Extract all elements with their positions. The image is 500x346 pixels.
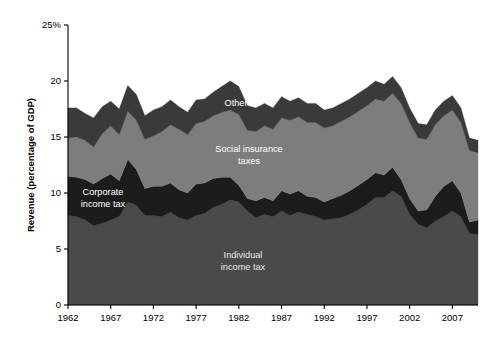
other-label: Other [225,98,248,108]
x-tick-label-1992: 1992 [314,312,335,323]
x-tick-label-2007: 2007 [442,312,463,323]
individual-label-line1: Individual [224,250,263,260]
y-tick-label-25: 25% [42,19,62,30]
x-tick-label-1962: 1962 [57,312,78,323]
social-insurance-label-line1: Social insurance [215,144,282,154]
y-tick-label-20: 20 [50,75,61,86]
x-tick-label-1982: 1982 [228,312,249,323]
revenue-composition-chart: 0510152025%19621967197219771982198719921… [0,0,500,346]
x-tick-label-1997: 1997 [356,312,377,323]
y-tick-label-5: 5 [56,243,61,254]
social-insurance-label-line2: taxes [238,156,260,166]
x-tick-label-1967: 1967 [100,312,121,323]
y-tick-label-10: 10 [50,187,61,198]
x-tick-label-2002: 2002 [399,312,420,323]
y-axis-title: Revenue (percentage of GDP) [25,98,36,232]
y-tick-label-0: 0 [56,299,61,310]
x-tick-label-1987: 1987 [271,312,292,323]
corporate-label-line1: Corporate [83,187,124,197]
corporate-label-line2: income tax [81,199,126,209]
chart-canvas: 0510152025%19621967197219771982198719921… [0,0,500,346]
individual-label-line2: income tax [221,262,266,272]
x-tick-label-1972: 1972 [143,312,164,323]
y-tick-label-15: 15 [50,131,61,142]
x-tick-label-1977: 1977 [186,312,207,323]
